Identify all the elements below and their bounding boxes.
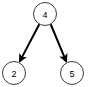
node-group: 4 2 5	[3, 3, 84, 85]
node-4[interactable]: 4	[34, 3, 57, 26]
node-2-label: 2	[11, 69, 16, 79]
edge-group	[20, 24, 66, 61]
edge-4-to-2	[20, 24, 40, 61]
node-5-label: 5	[69, 69, 74, 79]
node-4-label: 4	[42, 10, 47, 20]
node-5[interactable]: 5	[61, 62, 84, 85]
node-2[interactable]: 2	[3, 62, 26, 85]
graph-diagram: 4 2 5	[0, 0, 88, 87]
graph-canvas-svg: 4 2 5	[0, 0, 88, 87]
edge-4-to-5	[51, 24, 67, 61]
